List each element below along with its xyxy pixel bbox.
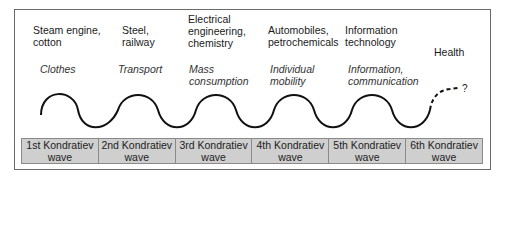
wave-cell-5: 5th Kondratievwave (329, 139, 406, 163)
wave-cell-6: 6th Kondratievwave (406, 139, 482, 163)
future-question-mark: ? (462, 83, 468, 95)
wave-cell-1: 1st Kondratievwave (22, 139, 99, 163)
kondratiev-wave-bar: 1st Kondratievwave 2nd Kondratievwave 3r… (21, 138, 483, 164)
wave-cell-4: 4th Kondratievwave (252, 139, 329, 163)
wave-cell-2: 2nd Kondratievwave (99, 139, 176, 163)
future-wave-dashed (430, 88, 458, 110)
wave-cell-3: 3rd Kondratievwave (176, 139, 253, 163)
